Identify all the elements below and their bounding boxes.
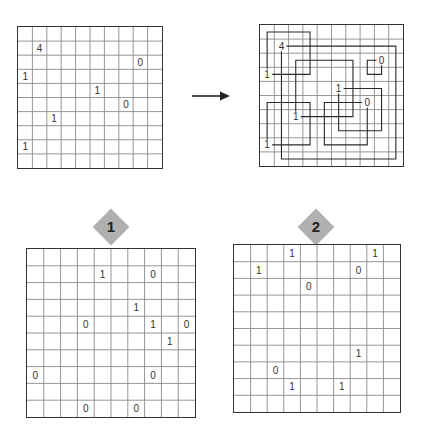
puzzle-2-grid[interactable]: 111001011 [233,244,401,413]
puzzle-2-badge: 2 [298,209,334,245]
clue-number: 0 [379,55,385,66]
grid-canvas: 10101010000 [27,249,195,417]
clue-number: 0 [150,370,156,381]
clue-number: 0 [150,269,156,280]
clue-number: 0 [133,403,139,414]
clue-number: 0 [356,265,362,276]
clue-number: 0 [138,57,144,68]
clue-number: 0 [83,319,89,330]
clue-number: 1 [22,71,28,82]
grid-canvas: 4011011 [18,27,162,168]
clue-number: 1 [133,302,139,313]
clue-number: 1 [264,69,270,80]
clue-number: 0 [83,403,89,414]
arrow-right-icon [190,90,232,102]
grid-canvas: 4011011 [260,25,403,166]
puzzle-1-grid[interactable]: 10101010000 [26,248,196,418]
clue-number: 1 [167,336,173,347]
clue-number: 1 [293,111,299,122]
clue-number: 4 [279,41,285,52]
clue-number: 1 [356,348,362,359]
clue-number: 0 [33,370,39,381]
clue-number: 0 [364,97,370,108]
grid-canvas: 111001011 [234,245,400,412]
clue-number: 1 [336,83,342,94]
clue-number: 1 [289,381,295,392]
clue-number: 0 [273,365,279,376]
puzzle-number: 2 [298,209,334,245]
puzzle-1-badge: 1 [93,209,129,245]
clue-number: 4 [37,43,43,54]
puzzle-number: 1 [93,209,129,245]
clue-number: 0 [306,281,312,292]
clue-number: 1 [372,248,378,259]
clue-number: 1 [94,85,100,96]
clue-number: 1 [100,269,106,280]
clue-number: 0 [184,319,190,330]
example-grid: 4011011 [17,26,163,169]
solution-grid: 4011011 [259,24,404,167]
clue-number: 1 [339,381,345,392]
clue-number: 0 [123,99,129,110]
clue-number: 1 [51,113,57,124]
clue-number: 1 [256,265,262,276]
clue-number: 1 [22,141,28,152]
clue-number: 1 [264,139,270,150]
clue-number: 1 [289,248,295,259]
clue-number: 1 [150,319,156,330]
